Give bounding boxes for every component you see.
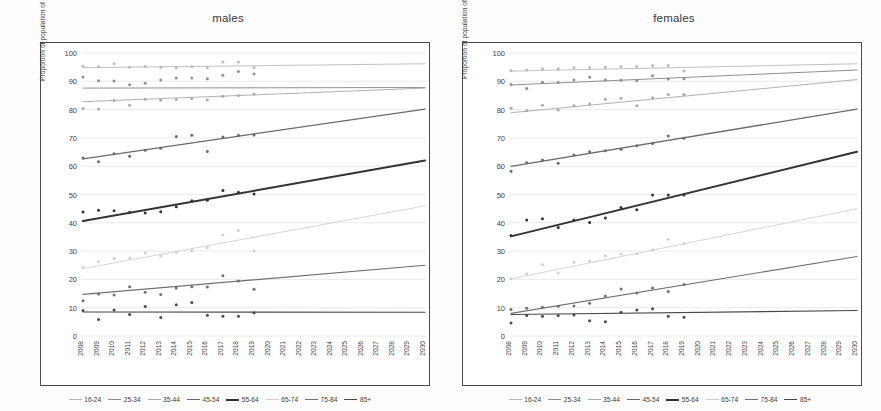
data-point <box>128 211 131 214</box>
series-85+ <box>82 301 426 321</box>
x-tick-label: 2027 <box>804 341 811 356</box>
data-point <box>525 272 528 275</box>
legend-item-55-64[interactable]: 55-64 <box>226 396 258 403</box>
data-point <box>604 254 607 257</box>
legend-item-85+[interactable]: 85+ <box>784 396 811 403</box>
legend-item-25-34[interactable]: 25-34 <box>548 396 580 403</box>
x-tick-label: 2025 <box>341 341 348 356</box>
legend-swatch-icon <box>509 399 522 400</box>
data-point <box>667 238 670 241</box>
x-tick-label: 2023 <box>310 341 317 356</box>
legend-label: 85+ <box>800 396 811 403</box>
legend-item-35-44[interactable]: 35-44 <box>588 396 620 403</box>
data-point <box>525 68 528 71</box>
y-tick-label: 50 <box>69 191 77 200</box>
data-point <box>128 66 131 69</box>
data-point <box>128 256 131 259</box>
x-tick-label: 2022 <box>725 341 732 356</box>
legend-item-65-74[interactable]: 65-74 <box>266 396 298 403</box>
y-tick-label: 60 <box>69 162 77 171</box>
data-point <box>113 80 116 83</box>
data-point <box>190 199 193 202</box>
data-point <box>683 242 686 245</box>
y-tick-label: 40 <box>69 219 77 228</box>
legend-item-25-34[interactable]: 25-34 <box>108 396 140 403</box>
data-point <box>159 316 162 319</box>
data-point <box>557 162 560 165</box>
data-point <box>175 66 178 69</box>
legend-swatch-icon <box>627 399 640 400</box>
y-tick-label: 90 <box>497 77 505 86</box>
legend-label: 45-54 <box>642 396 659 403</box>
data-point <box>541 306 544 309</box>
figure-container: males Proportion of population of given … <box>0 0 881 411</box>
legend-item-16-24[interactable]: 16-24 <box>69 396 101 403</box>
data-point <box>190 65 193 68</box>
data-point <box>588 102 591 105</box>
data-point <box>635 65 638 68</box>
x-tick-label: 2022 <box>295 341 302 356</box>
data-point <box>221 189 224 192</box>
data-point <box>128 285 131 288</box>
legend-item-85+[interactable]: 85+ <box>344 396 371 403</box>
data-point <box>541 263 544 266</box>
legend-swatch-icon <box>305 399 318 400</box>
legend-swatch-icon <box>784 399 797 400</box>
data-point <box>190 285 193 288</box>
data-point <box>221 61 224 64</box>
legend-item-55-64[interactable]: 55-64 <box>666 396 698 403</box>
series-35-44 <box>82 88 426 110</box>
trend-line <box>511 311 857 315</box>
data-point <box>683 316 686 319</box>
x-tick-label: 2019 <box>248 341 255 356</box>
legend-females: 16-2425-3435-4445-5455-6465-7475-8485+ <box>440 396 880 403</box>
data-point <box>510 277 513 280</box>
x-tick-label: 2011 <box>124 341 131 356</box>
data-point <box>113 308 116 311</box>
legend-item-75-84[interactable]: 75-84 <box>745 396 777 403</box>
data-point <box>541 315 544 318</box>
data-point <box>82 156 85 159</box>
legend-item-16-24[interactable]: 16-24 <box>509 396 541 403</box>
legend-item-75-84[interactable]: 75-84 <box>305 396 337 403</box>
panel-title-males: males <box>0 12 448 24</box>
data-point <box>221 233 224 236</box>
legend-item-65-74[interactable]: 65-74 <box>706 396 738 403</box>
legend-item-45-54[interactable]: 45-54 <box>187 396 219 403</box>
data-point <box>97 65 100 68</box>
data-point <box>604 216 607 219</box>
data-point <box>128 104 131 107</box>
x-tick-label: 2013 <box>584 341 591 356</box>
x-tick-label: 2029 <box>835 341 842 356</box>
chart-svg-females: 0102030405060708090100200820092010201120… <box>463 43 861 384</box>
data-point <box>253 311 256 314</box>
data-point <box>525 218 528 221</box>
data-point <box>237 134 240 137</box>
x-tick-label: 2029 <box>403 341 410 356</box>
legend-label: 16-24 <box>524 396 541 403</box>
data-point <box>144 252 147 255</box>
legend-item-45-54[interactable]: 45-54 <box>627 396 659 403</box>
y-tick-label: 90 <box>69 77 77 86</box>
data-point <box>604 295 607 298</box>
data-point <box>651 248 654 251</box>
x-tick-label: 2008 <box>77 341 84 356</box>
legend-item-35-44[interactable]: 35-44 <box>148 396 180 403</box>
data-point <box>175 303 178 306</box>
data-point <box>572 314 575 317</box>
data-point <box>635 104 638 107</box>
x-tick-label: 2021 <box>279 341 286 356</box>
plot-frame-males: Proportion of population of given age gr… <box>40 42 430 386</box>
data-point <box>525 161 528 164</box>
data-point <box>620 148 623 151</box>
data-point <box>97 79 100 82</box>
trend-line <box>83 88 425 89</box>
x-tick-label: 2021 <box>709 341 716 356</box>
data-point <box>588 150 591 153</box>
data-point <box>588 221 591 224</box>
y-tick-label: 60 <box>497 162 505 171</box>
x-tick-label: 2016 <box>201 341 208 356</box>
data-point <box>97 293 100 296</box>
data-point <box>159 293 162 296</box>
x-tick-label: 2015 <box>186 341 193 356</box>
